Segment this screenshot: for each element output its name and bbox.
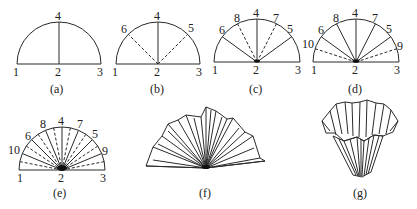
point-label: 7 bbox=[77, 117, 83, 131]
point-label: 5 bbox=[386, 22, 392, 36]
fold-line-2-6 bbox=[128, 34, 158, 64]
point-label: 2 bbox=[58, 171, 64, 185]
fold-line-2-5 bbox=[158, 34, 188, 64]
point-label: 8 bbox=[40, 117, 46, 131]
panel-caption: (g) bbox=[353, 186, 367, 200]
panel-caption: (a) bbox=[50, 82, 63, 96]
fold-line bbox=[62, 140, 92, 170]
fold-line-2-5 bbox=[356, 37, 391, 62]
point-label: 6 bbox=[25, 129, 31, 143]
point-label: 3 bbox=[97, 65, 103, 79]
point-label: 4 bbox=[154, 9, 160, 23]
fold-line-2-7 bbox=[257, 24, 277, 62]
fold-line-2-8 bbox=[238, 24, 258, 62]
panel-a: 1 2 3 4 (a) bbox=[13, 9, 103, 96]
panel-d: 1 2 3 4 5 6 7 8 9 10 (d) bbox=[302, 6, 403, 96]
point-label: 1 bbox=[13, 65, 19, 79]
point-label: 4 bbox=[55, 9, 61, 23]
point-label: 3 bbox=[196, 65, 202, 79]
point-label: 2 bbox=[154, 65, 160, 79]
point-label: 3 bbox=[100, 171, 106, 185]
panel-caption: (f) bbox=[199, 186, 211, 200]
point-label: 6 bbox=[121, 22, 127, 36]
point-label: 7 bbox=[273, 11, 279, 25]
panel-f: (f) bbox=[146, 107, 265, 200]
panel-caption: (d) bbox=[348, 82, 362, 96]
fold-center bbox=[202, 165, 210, 169]
point-label: 8 bbox=[333, 11, 339, 25]
point-label: 4 bbox=[253, 6, 259, 20]
fold-line-2-5 bbox=[257, 37, 292, 62]
panel-c: 1 2 3 4 5 6 7 8 (c) bbox=[212, 6, 301, 96]
point-label: 3 bbox=[295, 63, 301, 77]
panel-g: (g) bbox=[322, 100, 398, 200]
panel-e: 1 2 3 4 5 6 7 8 9 10 (e) bbox=[8, 114, 108, 200]
panel-caption: (e) bbox=[53, 186, 66, 200]
point-label: 8 bbox=[234, 11, 240, 25]
point-label: 4 bbox=[352, 6, 358, 20]
panel-caption: (c) bbox=[249, 82, 262, 96]
point-label: 3 bbox=[394, 63, 400, 77]
fold-line-2-6 bbox=[222, 37, 257, 62]
fold-line bbox=[32, 140, 62, 170]
point-label: 1 bbox=[112, 65, 118, 79]
cup-rim-pleats bbox=[322, 100, 398, 137]
panel-b: 1 2 3 4 5 6 (b) bbox=[112, 9, 202, 96]
point-label: 4 bbox=[58, 114, 64, 128]
point-label: 5 bbox=[188, 21, 194, 35]
point-label: 2 bbox=[55, 65, 61, 79]
point-label: 9 bbox=[397, 39, 403, 53]
folding-diagram: 1 2 3 4 (a) 1 2 3 4 5 6 (b) 1 2 3 4 5 6 … bbox=[0, 0, 417, 209]
point-label: 5 bbox=[287, 22, 293, 36]
point-label: 7 bbox=[372, 11, 378, 25]
point-label: 9 bbox=[102, 144, 108, 158]
point-label: 2 bbox=[352, 63, 358, 77]
point-label: 10 bbox=[8, 143, 20, 157]
point-label: 2 bbox=[253, 63, 259, 77]
point-label: 6 bbox=[219, 23, 225, 37]
point-label: 1 bbox=[311, 63, 317, 77]
panel-caption: (b) bbox=[150, 82, 164, 96]
fan-pleat-lines bbox=[146, 107, 265, 168]
point-label: 6 bbox=[318, 23, 324, 37]
fold-line-2-6 bbox=[321, 37, 356, 62]
point-label: 1 bbox=[212, 63, 218, 77]
point-label: 1 bbox=[17, 171, 23, 185]
point-label: 10 bbox=[302, 37, 314, 51]
point-label: 5 bbox=[92, 127, 98, 141]
